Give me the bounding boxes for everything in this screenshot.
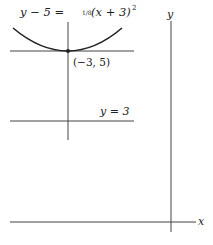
equation-exponent: 2 bbox=[132, 4, 136, 12]
parabola-diagram: y x y = 3 (−3, 5) y − 5 = 1/8 (x + 3) 2 bbox=[0, 0, 213, 245]
x-axis-label: x bbox=[198, 215, 205, 228]
vertex-point bbox=[66, 49, 70, 53]
equation-lhs: y − 5 = bbox=[19, 5, 68, 19]
vertex-label: (−3, 5) bbox=[73, 56, 110, 68]
equation-rhs: (x + 3) bbox=[91, 5, 131, 19]
directrix-label: y = 3 bbox=[99, 105, 129, 118]
y-axis-label: y bbox=[166, 8, 174, 21]
